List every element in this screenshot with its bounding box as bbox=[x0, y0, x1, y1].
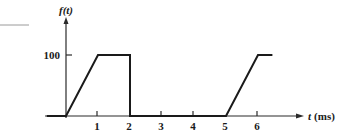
x-axis: t(ms) 1 2 3 4 5 6 bbox=[45, 110, 335, 132]
x-axis-label: t(ms) bbox=[308, 110, 335, 123]
y-axis-label: f(t) bbox=[59, 4, 73, 17]
x-axis-arrow-icon bbox=[296, 114, 304, 119]
x-tick-label-1: 1 bbox=[94, 120, 100, 132]
x-tick-label-2: 2 bbox=[126, 120, 132, 132]
waveform-line bbox=[47, 55, 273, 116]
x-tick-label-5: 5 bbox=[222, 120, 228, 132]
y-axis-arrow-icon bbox=[64, 17, 69, 24]
y-axis: f(t) 100 bbox=[44, 4, 74, 118]
waveform-chart: f(t) 100 t(ms) 1 2 3 4 5 6 bbox=[0, 0, 347, 136]
x-tick-label-6: 6 bbox=[254, 120, 260, 132]
y-tick-label-100: 100 bbox=[44, 49, 61, 61]
x-tick-label-3: 3 bbox=[158, 120, 164, 132]
x-tick-label-4: 4 bbox=[190, 120, 196, 132]
